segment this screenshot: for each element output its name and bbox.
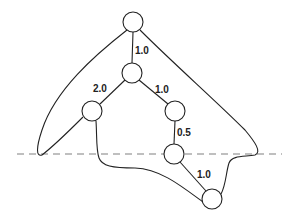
edge-weight-label: 1.0 <box>155 84 169 95</box>
tree-node-root <box>123 12 143 32</box>
edge-n3-n4 <box>174 121 175 144</box>
tree-node-n5 <box>202 189 222 209</box>
tree-node-n1 <box>122 63 142 83</box>
tree-node-n3 <box>165 101 185 121</box>
tree-diagram: 1.0 2.0 1.0 0.5 1.0 <box>0 0 295 224</box>
tree-node-n2 <box>82 101 102 121</box>
tree-node-n4 <box>164 144 184 164</box>
edge-weight-label: 0.5 <box>177 127 191 138</box>
contour-left-loop <box>38 30 128 155</box>
edge-n0-n1 <box>132 32 133 63</box>
edge-weight-label: 2.0 <box>93 83 107 94</box>
edge-weight-label: 1.0 <box>135 45 149 56</box>
edge-weight-label: 1.0 <box>197 169 211 180</box>
